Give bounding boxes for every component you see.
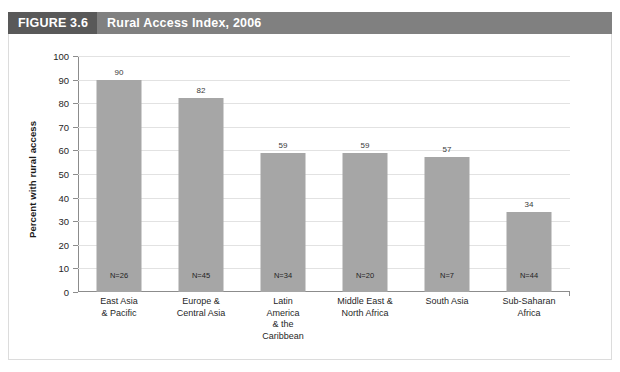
bar[interactable]: N=34 — [261, 153, 306, 292]
bar-value-label: 59 — [279, 141, 288, 150]
figure-title-bar: FIGURE 3.6 Rural Access Index, 2006 — [8, 12, 612, 34]
category-label-line: North Africa — [324, 308, 406, 320]
category-label-line: Latin — [242, 296, 324, 308]
category-label-line: East Asia — [78, 296, 160, 308]
y-axis-title: Percent with rural access — [27, 100, 38, 260]
y-tick-label-100: 100 — [53, 51, 69, 62]
bar-group: N=2690 — [78, 56, 160, 292]
bar-group: N=3459 — [242, 56, 324, 292]
category-label: Sub-SaharanAfrica — [488, 296, 570, 319]
bar[interactable]: N=7 — [425, 157, 470, 292]
category-label-line: Middle East & — [324, 296, 406, 308]
bar-group: N=2059 — [324, 56, 406, 292]
bar[interactable]: N=44 — [507, 212, 552, 292]
bar-sample-size-label: N=45 — [192, 271, 210, 280]
y-tick-label-90: 90 — [58, 74, 69, 85]
bars-layer: N=2690N=4582N=3459N=2059N=757N=4434 — [78, 56, 570, 292]
figure-number-label: FIGURE 3.6 — [8, 12, 97, 34]
bar[interactable]: N=20 — [343, 153, 388, 292]
bar-group: N=4434 — [488, 56, 570, 292]
bar-group: N=4582 — [160, 56, 242, 292]
y-tick-label-0: 0 — [64, 287, 69, 298]
category-label: Middle East &North Africa — [324, 296, 406, 319]
y-tick-label-80: 80 — [58, 98, 69, 109]
bar[interactable]: N=26 — [97, 80, 142, 292]
category-label-line: Central Asia — [160, 308, 242, 320]
bar-value-label: 90 — [115, 68, 124, 77]
category-label-line: & the — [242, 319, 324, 331]
category-label: LatinAmerica& theCaribbean — [242, 296, 324, 342]
figure-title: Rural Access Index, 2006 — [97, 12, 612, 34]
y-tick-label-60: 60 — [58, 145, 69, 156]
bar-sample-size-label: N=34 — [274, 271, 292, 280]
category-label-line: South Asia — [406, 296, 488, 308]
y-tick-label-20: 20 — [58, 239, 69, 250]
y-tick-label-10: 10 — [58, 263, 69, 274]
category-label: East Asia& Pacific — [78, 296, 160, 319]
x-axis-category-labels: East Asia& PacificEurope &Central AsiaLa… — [78, 296, 570, 358]
category-label-line: & Pacific — [78, 308, 160, 320]
category-label-line: Africa — [488, 308, 570, 320]
category-label: Europe &Central Asia — [160, 296, 242, 319]
bar-sample-size-label: N=20 — [356, 271, 374, 280]
y-tick-label-50: 50 — [58, 169, 69, 180]
y-tick-label-40: 40 — [58, 192, 69, 203]
y-tick-label-30: 30 — [58, 216, 69, 227]
bar-sample-size-label: N=7 — [440, 271, 454, 280]
category-label-line: Europe & — [160, 296, 242, 308]
chart-area: Percent with rural access 10090807060504… — [8, 34, 612, 360]
plot-area: 1009080706050403020100 N=2690N=4582N=345… — [78, 56, 570, 292]
category-label-line: Sub-Saharan — [488, 296, 570, 308]
y-tick-0 — [73, 292, 78, 293]
category-label-line: Caribbean — [242, 331, 324, 343]
category-label-line: America — [242, 308, 324, 320]
bar-sample-size-label: N=44 — [520, 271, 538, 280]
bar-value-label: 82 — [197, 86, 206, 95]
y-tick-label-70: 70 — [58, 121, 69, 132]
category-label: South Asia — [406, 296, 488, 308]
bar-value-label: 34 — [525, 200, 534, 209]
figure-container: FIGURE 3.6 Rural Access Index, 2006 Perc… — [0, 0, 620, 372]
bar-group: N=757 — [406, 56, 488, 292]
bar-value-label: 59 — [361, 141, 370, 150]
bar[interactable]: N=45 — [179, 98, 224, 292]
bar-value-label: 57 — [443, 145, 452, 154]
bar-sample-size-label: N=26 — [110, 271, 128, 280]
